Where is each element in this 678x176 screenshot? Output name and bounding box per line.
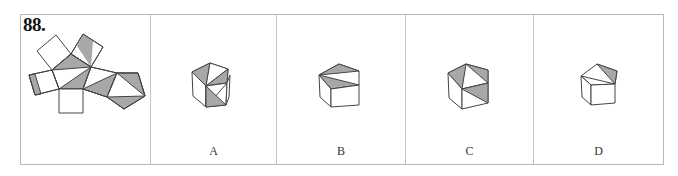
option-a-cell[interactable]: A [151,15,277,164]
option-c-figure [446,61,494,113]
question-table: 88. [20,14,664,165]
option-label: C [406,144,533,159]
option-b-figure [317,61,365,111]
option-d-figure [575,61,623,111]
net-figure [21,15,151,166]
net-cell: 88. [21,15,151,164]
option-label: D [534,144,663,159]
option-b-cell[interactable]: B [277,15,406,164]
option-c-cell[interactable]: C [406,15,534,164]
option-a-figure [190,61,238,111]
option-label: B [277,144,405,159]
option-d-cell[interactable]: D [534,15,663,164]
option-label: A [151,144,276,159]
